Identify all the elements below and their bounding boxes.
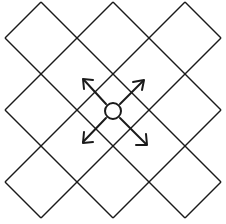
- arrow-down-right-icon: [120, 118, 147, 145]
- arrow-down-left-icon: [83, 118, 106, 143]
- arrow-up-right-icon: [120, 80, 144, 104]
- diamond-grid-diagram: [0, 0, 226, 224]
- diagram-canvas: [0, 0, 226, 224]
